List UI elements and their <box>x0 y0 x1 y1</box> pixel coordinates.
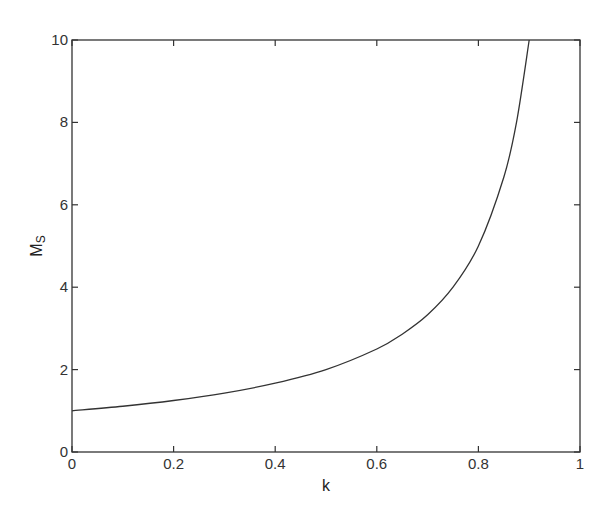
x-axis-tick-labels: 00.20.40.60.81 <box>68 455 584 472</box>
x-tick-label: 0.8 <box>468 455 489 472</box>
x-tick-label: 0.2 <box>163 455 184 472</box>
x-tick-label: 0.4 <box>265 455 286 472</box>
y-tick-label: 8 <box>60 113 68 130</box>
y-tick-label: 2 <box>60 361 68 378</box>
x-tick-label: 1 <box>576 455 584 472</box>
y-tick-label: 6 <box>60 196 68 213</box>
x-axis-ticks <box>72 40 580 452</box>
x-tick-label: 0 <box>68 455 76 472</box>
y-axis-label-main: M <box>28 243 45 256</box>
y-axis-label: MS <box>28 235 48 256</box>
chart: 00.20.40.60.81 0246810 k MS <box>0 0 613 509</box>
y-axis-ticks <box>72 40 580 452</box>
x-axis-label: k <box>322 477 331 494</box>
y-tick-label: 0 <box>60 443 68 460</box>
plot-frame <box>72 40 580 452</box>
y-tick-label: 4 <box>60 278 68 295</box>
data-series-line <box>72 40 529 411</box>
y-axis-tick-labels: 0246810 <box>51 31 68 460</box>
y-tick-label: 10 <box>51 31 68 48</box>
y-axis-label-subscript: S <box>34 235 48 243</box>
x-tick-label: 0.6 <box>366 455 387 472</box>
